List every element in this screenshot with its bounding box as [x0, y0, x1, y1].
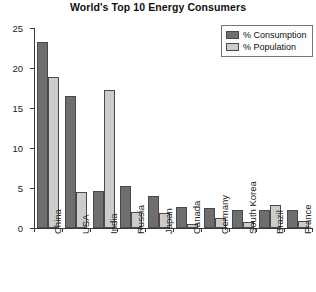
y-axis-tick-label: 10	[12, 143, 23, 154]
legend-swatch-consumption	[226, 31, 239, 39]
chart-legend: % Consumption % Population	[221, 25, 313, 57]
bar-group	[259, 28, 281, 228]
bar-group	[287, 28, 309, 228]
bar-group	[120, 28, 142, 228]
bar-consumption	[232, 210, 243, 228]
bar-group	[65, 28, 87, 228]
y-axis-tick-label: 0	[18, 223, 23, 234]
y-axis-line	[34, 28, 35, 228]
x-axis-category-label: Japan	[163, 208, 174, 234]
x-axis-tick	[34, 228, 35, 232]
bar-group	[148, 28, 170, 228]
x-axis-category-label: Germany	[219, 195, 230, 234]
y-axis-tick-label: 15	[12, 103, 23, 114]
y-axis-tick	[30, 28, 34, 29]
y-axis-tick-label: 20	[12, 63, 23, 74]
bar-population	[48, 77, 59, 228]
legend-swatch-population	[226, 43, 239, 51]
legend-item-population: % Population	[226, 41, 307, 53]
x-axis-category-label: USA	[80, 214, 91, 234]
y-axis-tick	[30, 108, 34, 109]
y-axis-tick	[30, 148, 34, 149]
x-axis-category-label: India	[108, 213, 119, 234]
bar-consumption	[176, 207, 187, 228]
bar-consumption	[204, 208, 215, 228]
chart-container: World's Top 10 Energy Consumers Percenta…	[0, 0, 316, 292]
x-axis-category-label: Brazil	[274, 210, 285, 234]
bar-group	[37, 28, 59, 228]
y-axis-tick	[30, 68, 34, 69]
legend-label-consumption: % Consumption	[243, 30, 307, 40]
bar-consumption	[93, 191, 104, 228]
y-axis-tick-labels: 0510152025	[0, 28, 30, 228]
plot-area	[34, 28, 312, 228]
x-axis-category-label: China	[52, 209, 63, 234]
bar-consumption	[120, 186, 131, 228]
legend-label-population: % Population	[243, 42, 296, 52]
bar-consumption	[287, 210, 298, 228]
bar-group	[93, 28, 115, 228]
x-axis-category-label: France	[302, 204, 313, 234]
bar-consumption	[259, 210, 270, 228]
x-axis-category-label: Russia	[135, 205, 146, 234]
chart-title: World's Top 10 Energy Consumers	[0, 1, 316, 13]
y-axis-tick	[30, 188, 34, 189]
y-axis-tick-label: 5	[18, 183, 23, 194]
bar-group	[176, 28, 198, 228]
bar-consumption	[65, 96, 76, 228]
bar-consumption	[148, 196, 159, 228]
bar-population	[104, 90, 115, 228]
y-axis-tick-label: 25	[12, 23, 23, 34]
legend-item-consumption: % Consumption	[226, 29, 307, 41]
x-axis-category-label: Canada	[191, 201, 202, 234]
x-axis-category-label: South Korea	[247, 181, 258, 234]
bar-consumption	[37, 42, 48, 228]
